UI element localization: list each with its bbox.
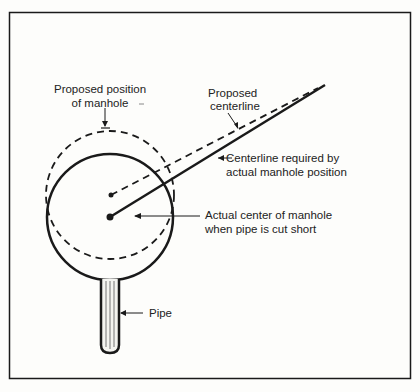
actual-center-dot xyxy=(107,214,114,221)
label-actual-center-2: when pipe is cut short xyxy=(204,223,317,235)
figure-border xyxy=(10,13,411,379)
proposed-center-dot xyxy=(109,193,114,198)
label-proposed-position-2: of manhole xyxy=(72,97,129,109)
manhole-diagram: Proposed position of manhole Proposed ce… xyxy=(0,0,420,392)
label-required-centerline: Centerline required by xyxy=(226,152,339,164)
pipe xyxy=(101,279,119,353)
label-proposed-centerline-2: centerline xyxy=(210,100,260,112)
label-proposed-centerline: Proposed xyxy=(208,87,257,99)
label-proposed-position: Proposed position xyxy=(54,83,146,95)
label-actual-center: Actual center of manhole xyxy=(205,209,332,221)
label-pipe: Pipe xyxy=(149,307,172,319)
label-required-centerline-2: actual manhole position xyxy=(226,166,347,178)
